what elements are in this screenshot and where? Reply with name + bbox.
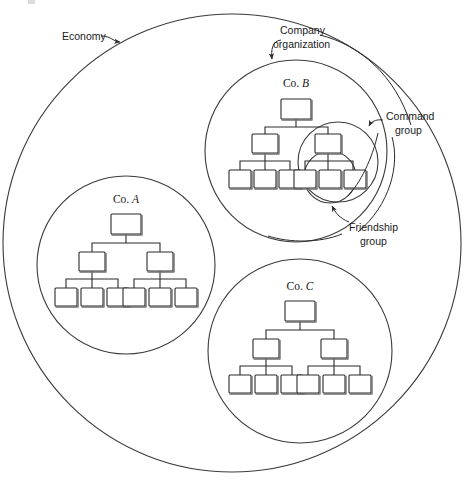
company-organization-label-line1: Company bbox=[280, 24, 326, 36]
page-corner-artifact bbox=[28, 0, 35, 4]
org-node-c-top bbox=[285, 301, 315, 321]
figure-container: Economy Company organization Command gro… bbox=[0, 0, 465, 482]
company-c-label: Co. C bbox=[287, 280, 314, 292]
org-chart-a-level1-connector bbox=[92, 234, 160, 252]
company-a-prefix: Co. bbox=[113, 193, 132, 205]
company-b-label: Co. B bbox=[283, 77, 309, 89]
org-chart-company-b bbox=[229, 99, 367, 189]
friendship-group-leader-line bbox=[332, 206, 349, 222]
org-chart-b-left-branch-connector bbox=[240, 153, 290, 170]
company-c-name: C bbox=[306, 280, 314, 292]
org-node-a-leaf-4 bbox=[123, 288, 145, 306]
command-group-label-line1: Command bbox=[386, 110, 435, 122]
org-node-c-leaf-4 bbox=[297, 375, 319, 393]
org-node-b-leaf-6 bbox=[344, 170, 366, 188]
friendship-group-label-line2: group bbox=[360, 235, 387, 247]
org-chart-company-a bbox=[55, 214, 198, 307]
org-node-c-leaf-1 bbox=[229, 375, 251, 393]
org-chart-b-level1-connector bbox=[265, 119, 328, 134]
org-chart-c-level1-connector bbox=[266, 321, 334, 339]
org-chart-a-left-branch-connector bbox=[66, 271, 118, 288]
org-node-c-leaf-5 bbox=[323, 375, 345, 393]
company-a-name: A bbox=[131, 193, 140, 205]
economy-label: Economy bbox=[62, 30, 107, 42]
org-node-b-leaf-2 bbox=[254, 170, 276, 188]
org-node-b-leaf-5 bbox=[319, 170, 341, 188]
command-group-label-line2: group bbox=[395, 124, 422, 136]
org-node-c-leaf-2 bbox=[255, 375, 277, 393]
org-chart-c-left-branch-connector bbox=[240, 358, 292, 375]
org-node-b-top bbox=[281, 99, 311, 119]
org-node-b-leaf-4 bbox=[294, 170, 316, 188]
friendship-group-label-line1: Friendship bbox=[349, 221, 398, 233]
org-node-a-top bbox=[111, 214, 141, 234]
org-chart-b-right-branch-connector bbox=[305, 153, 353, 170]
org-node-a-leaf-2 bbox=[81, 288, 103, 306]
org-node-a-leaf-5 bbox=[149, 288, 171, 306]
org-node-c-mid-right bbox=[321, 339, 347, 358]
org-chart-a-right-branch-connector bbox=[134, 271, 186, 288]
company-a-label: Co. A bbox=[113, 193, 140, 205]
org-node-a-mid-right bbox=[147, 252, 173, 271]
org-chart-company-c bbox=[229, 301, 372, 394]
nested-circles-diagram: Economy Company organization Command gro… bbox=[0, 0, 465, 482]
org-node-c-leaf-6 bbox=[349, 375, 371, 393]
org-node-c-mid-left bbox=[253, 339, 279, 358]
org-node-a-leaf-6 bbox=[175, 288, 197, 306]
org-node-a-mid-left bbox=[79, 252, 105, 271]
company-b-name: B bbox=[302, 77, 309, 89]
org-node-b-leaf-1 bbox=[229, 170, 251, 188]
economy-boundary-circle bbox=[3, 14, 461, 472]
company-organization-label-line2: organization bbox=[273, 38, 330, 50]
company-b-prefix: Co. bbox=[283, 77, 302, 89]
org-node-a-leaf-1 bbox=[55, 288, 77, 306]
org-chart-c-right-branch-connector bbox=[308, 358, 360, 375]
command-group-leader-line bbox=[369, 120, 383, 126]
org-node-b-mid-left bbox=[252, 134, 278, 153]
org-node-b-mid-right bbox=[315, 134, 341, 153]
company-c-prefix: Co. bbox=[287, 280, 306, 292]
